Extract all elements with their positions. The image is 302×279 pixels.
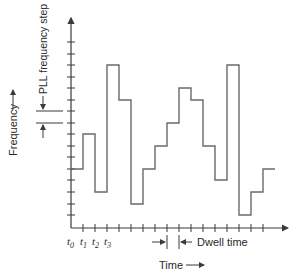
pll-step-annotation [36, 96, 63, 138]
frequency-hop-trace [71, 65, 275, 215]
dwell-time-label: Dwell time [197, 236, 248, 248]
svg-text:t2: t2 [92, 235, 99, 250]
x-axis-label: Time [159, 259, 183, 271]
x-tick-labels: t0 t1 t2 t3 [67, 235, 111, 250]
y-axis-label: Frequency [7, 104, 19, 156]
dwell-time-annotation [152, 235, 192, 249]
svg-text:t3: t3 [104, 235, 111, 250]
frequency-hopping-diagram: PLL frequency step Frequency t0 t1 t2 t3… [0, 0, 302, 279]
svg-text:t1: t1 [80, 235, 87, 250]
svg-text:t0: t0 [67, 235, 74, 250]
pll-step-label: PLL frequency step [37, 4, 49, 94]
